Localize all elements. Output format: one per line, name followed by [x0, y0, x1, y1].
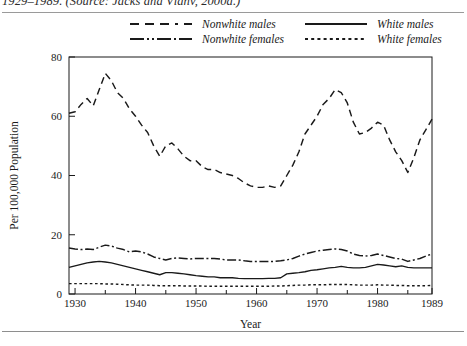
x-axis-title: Year — [240, 318, 261, 330]
x-tick-label: 1960 — [246, 297, 269, 309]
x-tick-label: 1989 — [421, 297, 444, 309]
x-tick-label: 1930 — [64, 297, 87, 309]
x-tick-label: 1970 — [306, 297, 329, 309]
x-tick-label: 1980 — [367, 297, 390, 309]
series-line-2 — [69, 261, 432, 278]
series-line-1 — [69, 245, 432, 261]
x-tick-label: 1950 — [185, 297, 208, 309]
line-chart: 0204060801930194019501960197019801989Yea… — [0, 0, 467, 346]
series-line-0 — [69, 73, 432, 187]
plot-area: 0204060801930194019501960197019801989Yea… — [0, 0, 467, 346]
y-tick-label: 40 — [51, 169, 63, 181]
y-tick-label: 80 — [51, 51, 63, 63]
y-tick-label: 0 — [57, 288, 63, 300]
x-tick-label: 1940 — [125, 297, 148, 309]
figure: 1929–1989. (Source: Jacks and Vlahv, 200… — [0, 0, 467, 346]
series-line-3 — [69, 284, 432, 287]
y-axis-title: Per 100,000 Population — [8, 121, 21, 230]
plot-frame — [69, 57, 432, 294]
y-tick-label: 60 — [51, 110, 63, 122]
y-tick-label: 20 — [51, 229, 63, 241]
